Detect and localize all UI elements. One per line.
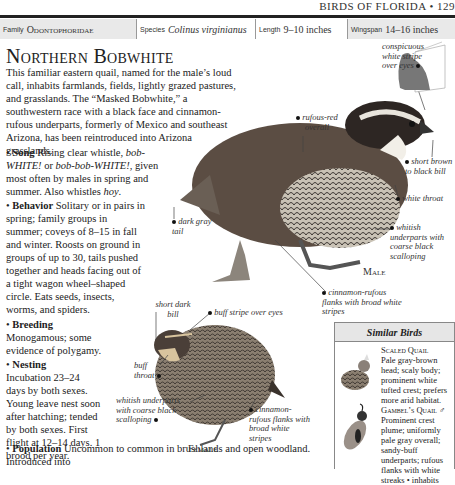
label-female-underparts: whitish underparts with coarse black sca… [116, 396, 192, 425]
similar-bird-name: Scaled Quail [381, 345, 428, 355]
label-female-throat: buff throat [134, 361, 162, 380]
pointer-dot-icon [405, 160, 409, 164]
pointer-dot-icon [296, 116, 300, 120]
pointer-dot-icon [322, 291, 326, 295]
label-female-stripe: buff stripe over eyes [208, 308, 308, 318]
similar-birds-box: Similar Birds Scaled Quail Pale gray-bro… [334, 322, 455, 469]
label-female-bill: short dark bill [153, 300, 193, 319]
pointer-dot-icon [157, 374, 161, 378]
pointer-dot-icon [249, 408, 253, 412]
label-male-underparts: whitish underparts with coarse black sca… [390, 223, 454, 261]
pointer-dot-icon [172, 220, 176, 224]
label-male-tail: dark gray tail [172, 217, 212, 236]
similar-birds-heading: Similar Birds [335, 323, 454, 342]
pointer-dot-icon [396, 197, 400, 201]
pointer-dot-icon [208, 311, 212, 315]
label-male-throat: white throat [396, 194, 455, 204]
similar-bird-description: Pale gray-brown head; scaly body; promin… [381, 355, 447, 405]
male-symbol-icon: ♂ [439, 405, 445, 415]
label-male-flanks: cinnamon-rufous flanks with broad white … [322, 288, 402, 317]
label-male-sex: Male [363, 266, 386, 277]
label-male-stripe: conspicuous white stripe over eyes [382, 42, 437, 71]
label-female-flanks: cinnamon-rufous flanks with broad white … [249, 405, 311, 443]
similar-bird-description: Prominent crest plume; uniformly pale gr… [381, 415, 443, 485]
label-male-bill: short brown to black bill [405, 157, 453, 176]
label-male-rufous: rufous-red overall [292, 113, 342, 132]
pointer-dot-icon [416, 64, 420, 68]
pointer-dot-icon [390, 226, 394, 230]
label-female-sex: Female [188, 443, 218, 454]
pointer-dot-icon [154, 418, 158, 422]
similar-bird-name: Gambel’s Quail [381, 405, 437, 415]
